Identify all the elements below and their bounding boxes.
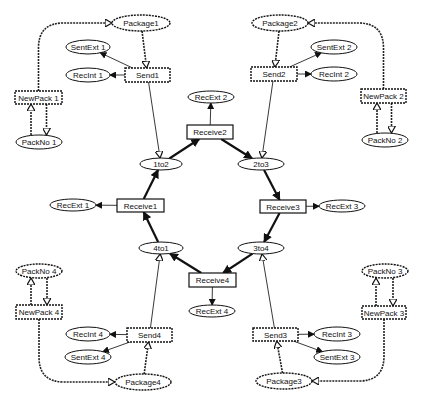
place-label: RecInt 1: [73, 71, 103, 80]
transition-label: NewPack 1: [18, 94, 59, 103]
place-label: SentExt 4: [71, 353, 106, 362]
transition-send2[interactable]: Send2: [251, 67, 297, 81]
arc-send2-to-sentext2: [290, 53, 322, 67]
transition-newpack4[interactable]: NewPack 4: [16, 305, 62, 319]
place-label: RecExt 2: [195, 93, 228, 102]
place-label: 1to2: [153, 160, 169, 169]
arc-receive2-to-2to3: [221, 139, 252, 158]
transition-send4[interactable]: Send4: [127, 328, 172, 342]
place-recint3[interactable]: RecInt 3: [314, 327, 360, 341]
place-packno4[interactable]: PackNo 4: [16, 264, 62, 278]
place-label: Package4: [125, 378, 161, 387]
place-package4[interactable]: Package4: [115, 374, 171, 390]
transition-label: Send1: [136, 71, 160, 80]
place-label: PackNo 3: [368, 267, 403, 276]
arc-send3-to-3to4: [262, 254, 274, 328]
transition-label: Receive3: [266, 203, 300, 212]
arc-receive2-to-recext2: [210, 103, 211, 125]
nodes-layer: Package1Package2Package3Package4SentExt …: [15, 15, 408, 390]
arc-send1-to-1to2: [149, 82, 161, 158]
transition-label: NewPack 3: [364, 309, 405, 318]
transition-label: NewPack 4: [19, 308, 60, 317]
place-label: 3to4: [253, 244, 269, 253]
arc-send2-to-2to3: [262, 81, 273, 158]
place-package3[interactable]: Package3: [256, 373, 312, 389]
transition-label: Receive2: [193, 128, 227, 137]
transition-receive1[interactable]: Receive1: [117, 199, 164, 212]
place-sentext3[interactable]: SentExt 3: [314, 350, 360, 364]
transition-label: Send2: [262, 70, 286, 79]
place-label: RecExt 1: [57, 201, 90, 210]
place-sentext2[interactable]: SentExt 2: [311, 40, 357, 54]
place-label: PackNo 4: [22, 267, 57, 276]
arc-send4-to-4to1: [150, 254, 160, 328]
place-label: RecInt 4: [73, 330, 103, 339]
transition-send3[interactable]: Send3: [253, 328, 298, 341]
arc-3to4-to-receive4: [223, 254, 252, 273]
place-label: PackNo 2: [368, 136, 403, 145]
place-3to4[interactable]: 3to4: [238, 242, 284, 254]
place-4to1[interactable]: 4to1: [139, 242, 183, 254]
place-2to3[interactable]: 2to3: [238, 158, 284, 170]
transition-newpack3[interactable]: NewPack 3: [362, 306, 406, 319]
place-sentext1[interactable]: SentExt 1: [66, 40, 110, 54]
arc-package2-to-send2: [275, 31, 279, 67]
place-recext3[interactable]: RecExt 3: [319, 200, 365, 212]
place-packno3[interactable]: PackNo 3: [362, 264, 408, 278]
arc-send1-to-sentext1: [100, 53, 132, 68]
place-package1[interactable]: Package1: [112, 15, 170, 31]
arc-1to2-to-receive2: [169, 139, 199, 159]
place-label: RecInt 3: [322, 330, 352, 339]
arc-package3-to-send3: [277, 341, 283, 373]
place-label: PackNo 1: [22, 138, 57, 147]
place-recint1[interactable]: RecInt 1: [66, 68, 110, 82]
place-recint4[interactable]: RecInt 4: [66, 327, 110, 341]
petri-net-diagram: Package1Package2Package3Package4SentExt …: [0, 0, 425, 408]
transition-label: Send4: [138, 331, 162, 340]
transition-receive4[interactable]: Receive4: [189, 273, 236, 287]
arc-send3-to-sentext3: [293, 341, 322, 352]
place-packno1[interactable]: PackNo 1: [16, 135, 62, 149]
place-recint2[interactable]: RecInt 2: [311, 67, 357, 81]
transition-send1[interactable]: Send1: [125, 68, 170, 82]
transition-label: Send3: [264, 331, 288, 340]
transition-newpack2[interactable]: NewPack 2: [361, 89, 406, 103]
place-sentext4[interactable]: SentExt 4: [65, 350, 111, 364]
place-label: RecExt 3: [326, 202, 359, 211]
transition-label: Receive1: [124, 202, 158, 211]
transition-newpack1[interactable]: NewPack 1: [15, 91, 62, 104]
place-1to2[interactable]: 1to2: [140, 158, 182, 170]
place-recext2[interactable]: RecExt 2: [188, 91, 234, 103]
place-label: Package2: [262, 19, 298, 28]
transition-label: Receive4: [196, 276, 230, 285]
place-label: SentExt 1: [71, 43, 106, 52]
place-label: 4to1: [153, 244, 169, 253]
transition-receive3[interactable]: Receive3: [260, 200, 306, 213]
arc-send4-to-sentext4: [103, 342, 130, 352]
arc-receive4-to-4to1: [170, 253, 201, 273]
transition-label: NewPack 2: [363, 92, 404, 101]
arc-package1-to-send1: [142, 31, 147, 68]
place-label: SentExt 2: [317, 43, 352, 52]
arc-4to1-to-receive1: [144, 212, 158, 242]
place-recext4[interactable]: RecExt 4: [189, 305, 235, 317]
place-label: 2to3: [253, 160, 269, 169]
arc-receive3-to-3to4: [264, 213, 279, 242]
place-package2[interactable]: Package2: [252, 15, 308, 31]
place-label: RecExt 4: [196, 307, 229, 316]
place-label: RecInt 2: [319, 70, 349, 79]
place-label: SentExt 3: [320, 353, 355, 362]
transition-receive2[interactable]: Receive2: [187, 125, 233, 139]
place-packno2[interactable]: PackNo 2: [362, 133, 408, 147]
place-label: Package3: [266, 377, 302, 386]
arc-2to3-to-receive3: [264, 170, 280, 200]
arc-receive1-to-1to2: [144, 170, 158, 199]
place-recext1[interactable]: RecExt 1: [50, 199, 96, 211]
arc-package4-to-send4: [144, 342, 148, 374]
place-label: Package1: [123, 19, 159, 28]
